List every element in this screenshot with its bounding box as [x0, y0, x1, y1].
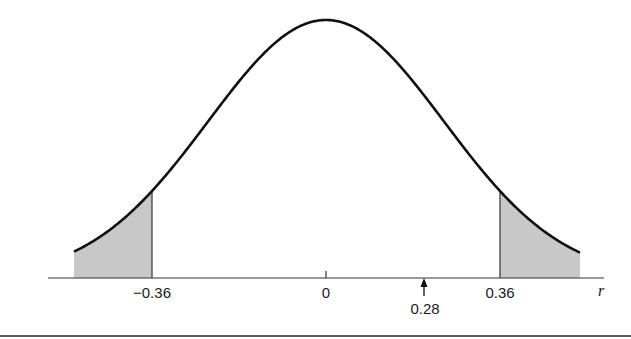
observed-value-label: 0.28 [410, 300, 439, 317]
tick-label-pos-036: 0.36 [485, 284, 514, 301]
tick-label-zero: 0 [322, 284, 330, 301]
axis-variable-r: r [598, 282, 605, 299]
normal-distribution-chart: −0.36 0 0.36 0.28 r [0, 0, 631, 339]
tick-label-neg-036: −0.36 [133, 284, 171, 301]
observed-value-arrow-icon [421, 278, 428, 296]
